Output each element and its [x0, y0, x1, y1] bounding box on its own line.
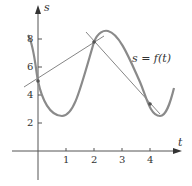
x-tick-label-3: 3 [119, 155, 125, 165]
point-t0 [36, 79, 40, 83]
y-axis-arrow-icon [35, 5, 41, 14]
equation-label: s = f(t) [132, 53, 171, 64]
y-tick-label-4: 4 [27, 90, 33, 100]
y-tick-label-6: 6 [27, 62, 33, 72]
y-axis-label: s [44, 2, 50, 13]
y-tick-label-2: 2 [27, 118, 33, 128]
x-tick-label-1: 1 [63, 155, 69, 165]
x-tick-label-2: 2 [91, 155, 97, 165]
curve-s-equals-f-of-t [28, 31, 174, 116]
y-tick-label-8: 8 [27, 34, 33, 44]
point-t4 [148, 102, 152, 106]
point-t2 [92, 40, 96, 44]
x-tick-label-4: 4 [147, 155, 153, 165]
x-axis-label: t [178, 137, 182, 148]
